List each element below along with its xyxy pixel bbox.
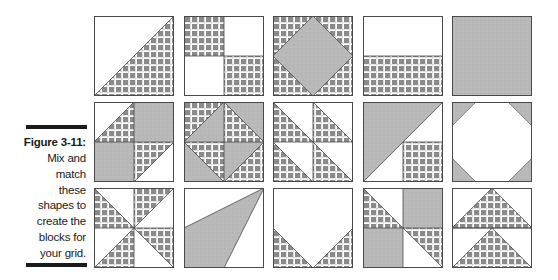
caption-line: Mix and [37,151,86,167]
block-four-patch [184,16,264,96]
block-half-square-pinwheel-variation [94,102,174,182]
caption-top-rule [26,125,87,129]
block-four-half-square-triangles [273,102,353,182]
block-solid-square [452,16,532,96]
block-octagon-snowball [452,102,532,182]
block-square-in-square [273,16,353,96]
block-large-triangle-with-square [363,102,443,182]
caption-line: create the [37,214,86,230]
caption-line: your grid. [37,246,86,262]
block-flying-geese-pair [452,188,532,268]
caption-line: shapes to [37,198,86,214]
caption-line: blocks for [37,230,86,246]
block-half-square-triangle [94,16,174,96]
figure-label: Figure 3-11: [24,136,86,148]
block-diamond-quarters [184,102,264,182]
block-pentagon-house [273,188,353,268]
caption-bottom-rule [26,263,87,267]
caption-line: these [37,183,86,199]
caption-line: match [37,167,86,183]
block-two-triangle-four-patch [363,188,443,268]
block-pinwheel [94,188,174,268]
block-two-bar-rectangle [363,16,443,96]
block-irregular-triangle [184,188,264,268]
figure-caption: Mix and match these shapes to create the… [37,151,86,262]
